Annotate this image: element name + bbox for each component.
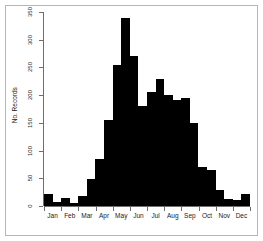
y-axis-tick-label: 250 <box>22 62 38 72</box>
x-axis-tick <box>233 207 234 211</box>
x-axis-tick <box>147 207 148 211</box>
histogram-bar <box>95 159 104 206</box>
x-axis-tick <box>199 207 200 211</box>
x-axis-tick <box>61 207 62 211</box>
y-axis-tick-label: 200 <box>22 90 38 100</box>
x-axis-tick <box>164 207 165 211</box>
y-axis-tick-label-text: 100 <box>27 146 33 156</box>
histogram-bar <box>121 18 130 206</box>
histogram-bar <box>130 56 139 206</box>
y-axis-tick <box>39 95 43 96</box>
histogram-bar <box>44 194 53 206</box>
plot-area <box>44 12 250 206</box>
histogram-bar <box>164 95 173 206</box>
y-axis-tick-label-text: 350 <box>27 7 33 17</box>
y-axis-tick-label: 350 <box>22 7 38 17</box>
histogram-bar <box>87 179 96 206</box>
y-axis-tick-label: 150 <box>22 118 38 128</box>
y-axis-tick-label: 50 <box>22 173 38 183</box>
histogram-bars <box>44 12 250 206</box>
y-axis-title: No. Records <box>8 60 22 150</box>
y-axis-tick-label-text: 0 <box>27 204 33 207</box>
y-axis-tick <box>39 40 43 41</box>
y-axis-tick-label-text: 300 <box>27 35 33 45</box>
y-axis-tick <box>39 67 43 68</box>
y-axis-tick-label-text: 50 <box>27 175 33 182</box>
histogram-bar <box>190 123 199 206</box>
chart-figure: 050100150200250300350 JanFebMarAprMayJun… <box>0 0 263 241</box>
y-axis-line <box>43 12 44 206</box>
histogram-bar <box>104 120 113 206</box>
histogram-bar <box>156 79 165 206</box>
y-axis-tick-label-text: 250 <box>27 62 33 72</box>
histogram-bar <box>113 65 122 206</box>
x-axis-tick-label: Dec <box>229 212 253 220</box>
y-axis-tick <box>39 178 43 179</box>
y-axis-tick <box>39 151 43 152</box>
histogram-bar <box>147 92 156 206</box>
y-axis-title-text: No. Records <box>12 87 19 123</box>
y-axis-tick-label: 0 <box>22 201 38 211</box>
y-axis-tick <box>39 206 43 207</box>
y-axis-tick <box>39 123 43 124</box>
histogram-bar <box>224 199 233 206</box>
y-axis-tick-label: 100 <box>22 146 38 156</box>
y-axis-tick-label-text: 150 <box>27 118 33 128</box>
x-axis-tick <box>250 207 251 211</box>
histogram-bar <box>241 194 250 206</box>
x-axis-tick <box>96 207 97 211</box>
y-axis-tick-label-text: 200 <box>27 90 33 100</box>
histogram-bar <box>61 198 70 206</box>
y-axis-tick-label: 300 <box>22 35 38 45</box>
histogram-bar <box>173 100 182 206</box>
x-axis-tick <box>181 207 182 211</box>
histogram-bar <box>181 98 190 206</box>
x-axis-tick <box>113 207 114 211</box>
histogram-bar <box>138 106 147 206</box>
histogram-bar <box>216 190 225 206</box>
x-axis-tick <box>130 207 131 211</box>
histogram-bar <box>198 167 207 206</box>
x-axis-tick <box>216 207 217 211</box>
x-axis-tick <box>78 207 79 211</box>
histogram-bar <box>78 196 87 206</box>
histogram-bar <box>207 170 216 206</box>
x-axis-tick <box>44 207 45 211</box>
y-axis-tick <box>39 12 43 13</box>
